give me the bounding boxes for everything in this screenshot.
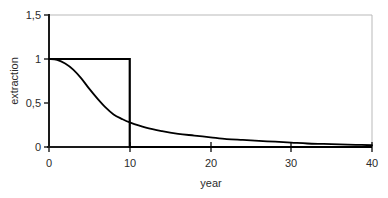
y-tick-label-1-5: 1,5 bbox=[26, 9, 41, 21]
x-tick-label-10: 10 bbox=[124, 157, 136, 169]
x-tick-label-20: 20 bbox=[205, 157, 217, 169]
x-tick-label-0: 0 bbox=[46, 157, 52, 169]
x-tick-label-40: 40 bbox=[366, 157, 378, 169]
y-axis-title: extraction bbox=[8, 57, 20, 105]
chart-background bbox=[0, 0, 388, 198]
extraction-vs-year-chart: 1,5 1 0,5 0 0 10 20 30 40 year extractio… bbox=[0, 0, 388, 198]
y-tick-label-0-5: 0,5 bbox=[26, 97, 41, 109]
x-tick-label-30: 30 bbox=[285, 157, 297, 169]
x-axis-title: year bbox=[200, 177, 222, 189]
y-tick-label-1: 1 bbox=[35, 53, 41, 65]
y-tick-label-0: 0 bbox=[35, 141, 41, 153]
chart-svg: 1,5 1 0,5 0 0 10 20 30 40 year extractio… bbox=[0, 0, 388, 198]
